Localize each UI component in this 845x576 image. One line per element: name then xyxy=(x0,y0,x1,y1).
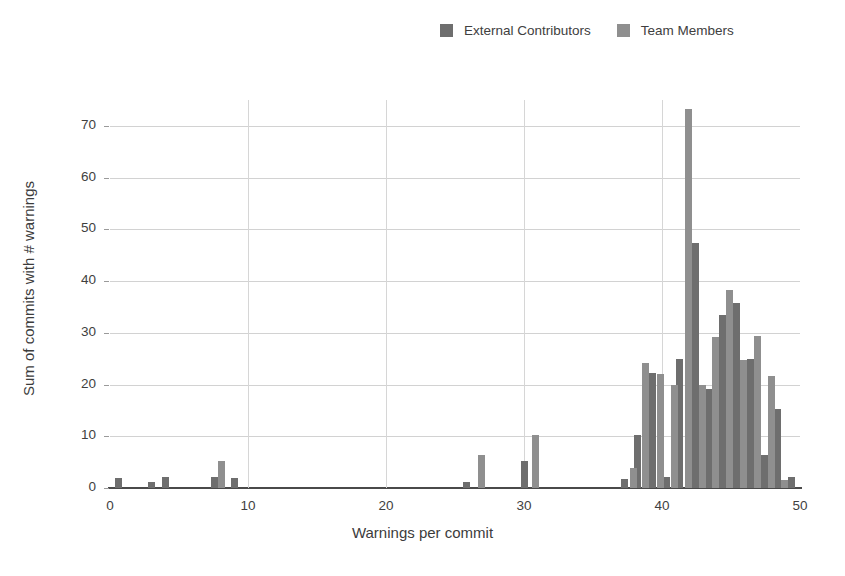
legend-item-label: Team Members xyxy=(641,24,734,38)
x-gridline xyxy=(386,100,387,488)
y-axis-tick-label: 70 xyxy=(60,117,96,132)
y-axis-label-wrapper: Sum of commits with # warnings xyxy=(16,0,42,576)
chart-bar[interactable] xyxy=(521,461,528,488)
chart-bar[interactable] xyxy=(463,482,470,488)
chart-bar[interactable] xyxy=(630,468,637,488)
x-gridline xyxy=(524,100,525,488)
chart-bar[interactable] xyxy=(788,477,795,488)
chart-bar[interactable] xyxy=(712,337,719,488)
chart-bar[interactable] xyxy=(685,109,692,488)
square-swatch-icon xyxy=(440,24,453,37)
square-swatch-icon xyxy=(617,24,630,37)
x-gridline xyxy=(248,100,249,488)
y-axis-tick-mark xyxy=(104,281,109,282)
x-axis-tick-label: 20 xyxy=(366,498,406,513)
chart-legend: External Contributors Team Members xyxy=(440,24,734,38)
chart-bar[interactable] xyxy=(162,477,169,488)
x-axis-tick-label: 10 xyxy=(228,498,268,513)
chart-bar[interactable] xyxy=(726,290,733,488)
y-axis-tick-mark xyxy=(104,333,109,334)
x-axis-tick-label: 0 xyxy=(90,498,130,513)
chart-container: External Contributors Team Members Warni… xyxy=(0,0,845,576)
x-axis-tick-label: 50 xyxy=(780,498,820,513)
chart-bar[interactable] xyxy=(649,373,656,488)
y-axis-tick-mark xyxy=(104,229,109,230)
y-axis-tick-mark xyxy=(104,126,109,127)
chart-bar[interactable] xyxy=(532,435,539,488)
y-axis-tick-label: 50 xyxy=(60,220,96,235)
y-axis-tick-mark xyxy=(104,178,109,179)
chart-bar[interactable] xyxy=(218,461,225,488)
chart-bar[interactable] xyxy=(657,374,664,488)
chart-bar[interactable] xyxy=(148,482,155,488)
x-axis-label: Warnings per commit xyxy=(0,524,845,541)
x-axis-tick-label: 40 xyxy=(642,498,682,513)
y-axis-tick-mark xyxy=(104,488,109,489)
y-axis-tick-label: 20 xyxy=(60,376,96,391)
plot-area xyxy=(110,100,800,488)
y-axis-tick-label: 60 xyxy=(60,169,96,184)
legend-item-label: External Contributors xyxy=(464,24,591,38)
y-gridline xyxy=(110,178,800,179)
y-axis-tick-mark xyxy=(104,436,109,437)
y-axis-label: Sum of commits with # warnings xyxy=(21,180,38,395)
y-axis-tick-label: 0 xyxy=(60,479,96,494)
y-gridline xyxy=(110,126,800,127)
chart-bar[interactable] xyxy=(478,455,485,488)
legend-item-external-contributors[interactable]: External Contributors xyxy=(440,24,591,38)
chart-bar[interactable] xyxy=(231,478,238,488)
chart-bar[interactable] xyxy=(642,363,649,488)
chart-bar[interactable] xyxy=(699,385,706,488)
x-axis-tick-label: 30 xyxy=(504,498,544,513)
chart-bar[interactable] xyxy=(115,478,122,488)
y-axis-tick-mark xyxy=(104,385,109,386)
chart-bar[interactable] xyxy=(754,336,761,488)
chart-bar[interactable] xyxy=(768,376,775,488)
chart-bar[interactable] xyxy=(781,480,788,488)
y-axis-tick-label: 40 xyxy=(60,272,96,287)
y-axis-tick-label: 30 xyxy=(60,324,96,339)
y-gridline xyxy=(110,229,800,230)
chart-bar[interactable] xyxy=(740,360,747,488)
chart-bar[interactable] xyxy=(774,409,781,488)
chart-bar[interactable] xyxy=(621,479,628,488)
chart-bar[interactable] xyxy=(671,385,678,488)
y-axis-tick-label: 10 xyxy=(60,427,96,442)
legend-item-team-members[interactable]: Team Members xyxy=(617,24,734,38)
